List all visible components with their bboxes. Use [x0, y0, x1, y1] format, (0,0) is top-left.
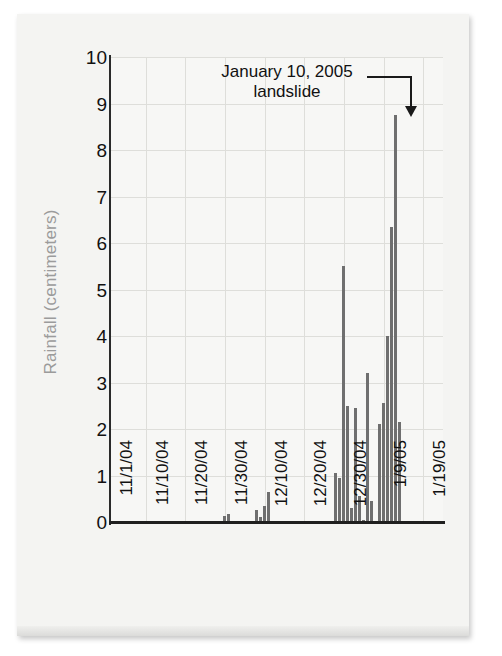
y-axis-tick-label: 10 [73, 48, 107, 67]
bar [338, 478, 341, 522]
annotation-line-1: January 10, 2005 [187, 62, 387, 82]
y-axis-tick-label: 0 [73, 513, 107, 532]
bar [267, 492, 270, 522]
bar [346, 406, 349, 522]
y-axis-tick-label: 9 [73, 95, 107, 114]
x-axis-tick-label: 12/30/04 [351, 440, 371, 530]
bar [334, 473, 337, 522]
y-axis-line [109, 55, 111, 525]
x-axis-tick-label: 11/30/04 [232, 440, 252, 530]
x-axis-tick-label: 1/9/05 [391, 440, 411, 530]
y-axis-tick-label: 1 [73, 467, 107, 486]
annotation-leader-horizontal [367, 76, 412, 78]
x-axis-tick-label: 11/1/04 [117, 440, 137, 530]
x-axis-tick-label: 12/20/04 [311, 440, 331, 530]
bar [342, 266, 345, 522]
x-axis-tick-label: 12/10/04 [272, 440, 292, 530]
y-axis-tick-label: 8 [73, 141, 107, 160]
annotation-arrow-icon [405, 106, 417, 117]
y-axis-tick-labels: 109876543210 [63, 14, 107, 636]
x-axis-tick-label: 11/20/04 [192, 440, 212, 530]
y-axis-tick-label: 6 [73, 234, 107, 253]
bar [263, 506, 266, 522]
y-axis-tick-label: 7 [73, 188, 107, 207]
y-axis-tick-label: 4 [73, 327, 107, 346]
y-axis-title: Rainfall (centimeters) [41, 192, 61, 392]
bar [378, 424, 381, 522]
landslide-annotation: January 10, 2005 landslide [187, 62, 387, 102]
bar [382, 403, 385, 522]
x-axis-tick-label: 1/19/05 [430, 440, 450, 530]
y-axis-tick-label: 2 [73, 420, 107, 439]
y-axis-tick-label: 3 [73, 374, 107, 393]
y-axis-tick-label: 5 [73, 281, 107, 300]
x-axis-tick-label: 11/10/04 [153, 440, 173, 530]
bar [386, 336, 389, 522]
annotation-line-2: landslide [187, 82, 387, 102]
rainfall-chart-figure: 109876543210 11/1/0411/10/0411/20/0411/3… [17, 14, 469, 636]
annotation-leader-vertical [410, 76, 412, 109]
scanned-page-sheet: 109876543210 11/1/0411/10/0411/20/0411/3… [17, 14, 469, 636]
